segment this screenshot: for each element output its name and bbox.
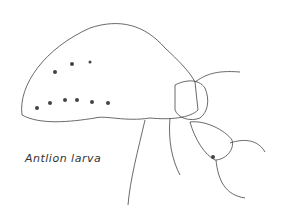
- leg-2: [169, 118, 180, 175]
- mandible-upper: [230, 140, 265, 152]
- abdomen: [22, 24, 198, 122]
- head: [190, 122, 233, 160]
- antlion-larva-drawing: [0, 0, 295, 219]
- leg-3: [195, 72, 240, 82]
- leg-1: [128, 120, 145, 205]
- illustration: Antlion larva: [0, 0, 295, 219]
- thorax: [175, 81, 208, 120]
- mandible-lower: [216, 160, 245, 198]
- caption: Antlion larva: [25, 152, 101, 165]
